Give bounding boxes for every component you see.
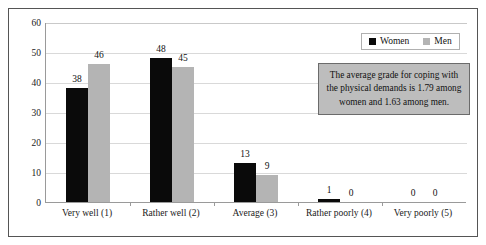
bar-holder-women: 48 (150, 22, 172, 202)
black-square-icon (369, 38, 376, 45)
chart-legend: Women Men (361, 33, 460, 50)
bar-holder-women: 38 (66, 22, 88, 202)
category-separator (214, 202, 215, 206)
bar-value-label: 9 (252, 162, 282, 172)
category-separator (298, 202, 299, 206)
bar-men[interactable] (256, 175, 278, 202)
bar-value-label: 45 (168, 54, 198, 64)
bar-women[interactable] (318, 199, 340, 202)
x-axis-label-average: Average (3) (213, 208, 297, 218)
bar-group-rather-well: 48 45 (130, 22, 214, 202)
x-axis-label-very-poorly: Very poorly (5) (381, 208, 465, 218)
bar-group-average: 13 9 (214, 22, 298, 202)
y-axis-tick-30: 30 (32, 108, 42, 118)
y-axis-tick-0: 0 (36, 198, 41, 208)
bar-women[interactable] (66, 88, 88, 202)
bar-men[interactable] (88, 64, 110, 202)
category-separator (382, 202, 383, 206)
chart-figure: 60 50 40 30 20 10 0 38 46 (8, 8, 478, 237)
bar-group-very-well: 38 46 (46, 22, 130, 202)
bar-value-label: 46 (84, 51, 114, 61)
bar-holder-men: 45 (172, 22, 194, 202)
y-axis-tick-40: 40 (32, 78, 42, 88)
category-separator (130, 202, 131, 206)
legend-item-women[interactable]: Women (369, 36, 409, 46)
bar-women[interactable] (150, 58, 172, 202)
x-axis-label-rather-well: Rather well (2) (129, 208, 213, 218)
legend-item-men[interactable]: Men (423, 36, 451, 46)
y-axis-tick-50: 50 (32, 48, 42, 58)
bar-value-label: 0 (420, 189, 450, 199)
annotation-textbox: The average grade for coping with the ph… (318, 63, 470, 115)
y-axis-tick-labels: 60 50 40 30 20 10 0 (9, 23, 45, 203)
bar-men[interactable] (172, 67, 194, 202)
x-axis-label-very-well: Very well (1) (45, 208, 129, 218)
bar-value-label: 0 (336, 189, 366, 199)
legend-label-women: Women (380, 36, 409, 46)
y-axis-tick-60: 60 (32, 18, 42, 28)
y-axis-tick-10: 10 (32, 168, 42, 178)
bar-holder-men: 46 (88, 22, 110, 202)
x-axis-label-rather-poorly: Rather poorly (4) (297, 208, 381, 218)
gray-square-icon (423, 38, 430, 45)
bar-holder-women: 13 (234, 22, 256, 202)
bar-holder-men: 9 (256, 22, 278, 202)
legend-label-men: Men (434, 36, 451, 46)
y-axis-tick-20: 20 (32, 138, 42, 148)
